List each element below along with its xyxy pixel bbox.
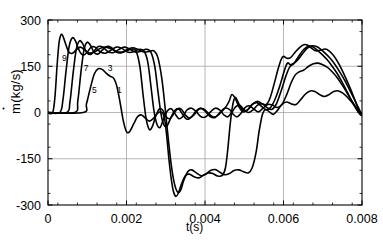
y-axis-title-text: m <box>8 103 23 114</box>
curve-label-5: 5 <box>92 85 97 95</box>
curve-label-3: 3 <box>108 63 113 73</box>
x-axis-title: t(s) <box>186 220 203 234</box>
y-tick-label: 150 <box>20 60 41 74</box>
m-dot-symbol: m <box>8 103 23 114</box>
x-axis-tick-labels: 00.0020.0040.0060.008 <box>45 212 378 226</box>
x-tick-label: 0.008 <box>346 212 377 226</box>
y-tick-label: -300 <box>16 199 41 213</box>
x-tick-label: 0.006 <box>268 212 299 226</box>
curve-label-7: 7 <box>84 63 89 73</box>
x-tick-label: 0 <box>45 212 52 226</box>
y-axis-title: m(kg/s) <box>8 49 23 135</box>
curve-label-9: 9 <box>62 53 67 63</box>
chart-canvas: 00.0020.0040.0060.008 -300-1500150300 97… <box>0 0 383 242</box>
y-axis-title-units: (kg/s) <box>8 69 23 103</box>
y-tick-label: 0 <box>34 106 41 120</box>
y-tick-label: -150 <box>16 152 41 166</box>
curve-label-1: 1 <box>117 85 122 95</box>
figure: 00.0020.0040.0060.008 -300-1500150300 97… <box>0 0 383 242</box>
x-tick-label: 0.002 <box>111 212 142 226</box>
y-tick-label: 300 <box>20 14 41 28</box>
